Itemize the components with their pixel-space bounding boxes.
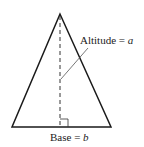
altitude-leader-line	[61, 48, 88, 79]
base-label: Base = b	[50, 131, 89, 143]
triangle-diagram: Altitude = a Base = b	[0, 0, 144, 147]
right-angle-marker	[60, 119, 68, 127]
altitude-label: Altitude = a	[80, 34, 134, 46]
triangle-outline	[12, 14, 111, 127]
